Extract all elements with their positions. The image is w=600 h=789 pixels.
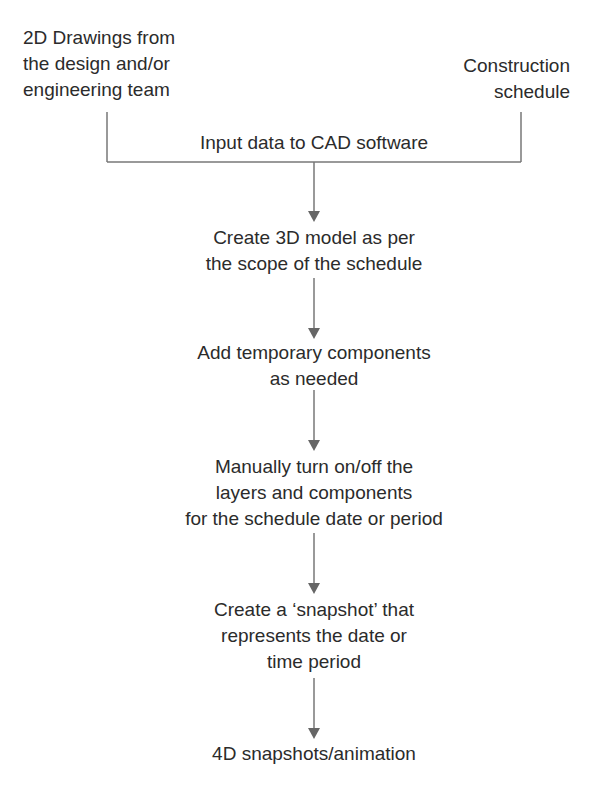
merge-label: Input data to CAD software [200, 130, 428, 156]
text-line: 2D Drawings from [23, 25, 175, 51]
text-line: layers and components [185, 480, 443, 506]
text-line: for the schedule date or period [185, 506, 443, 532]
text-line: time period [214, 649, 414, 675]
text-line: Create a ‘snapshot’ that [214, 597, 414, 623]
text-line: Create 3D model as per [206, 225, 423, 251]
step-toggle-layers: Manually turn on/off the layers and comp… [185, 454, 443, 532]
arrowhead-icon [308, 728, 320, 739]
input-construction-schedule: Construction schedule [463, 53, 570, 105]
arrowhead-icon [308, 440, 320, 451]
arrowhead-icon [308, 328, 320, 339]
text-line: engineering team [23, 77, 175, 103]
step-4d-output: 4D snapshots/animation [212, 741, 416, 767]
text-line: the design and/or [23, 51, 175, 77]
step-create-snapshot: Create a ‘snapshot’ that represents the … [214, 597, 414, 675]
text-line: Construction [463, 53, 570, 79]
text-line: the scope of the schedule [206, 251, 423, 277]
input-design-drawings: 2D Drawings from the design and/or engin… [23, 25, 175, 103]
text-line: Add temporary components [197, 340, 430, 366]
step-create-3d-model: Create 3D model as per the scope of the … [206, 225, 423, 277]
text-line: Manually turn on/off the [185, 454, 443, 480]
arrowhead-icon [308, 211, 320, 222]
arrowhead-icon [308, 583, 320, 594]
step-add-temporary-components: Add temporary components as needed [197, 340, 430, 392]
text-line: 4D snapshots/animation [212, 741, 416, 767]
text-line: as needed [197, 366, 430, 392]
text-line: represents the date or [214, 623, 414, 649]
text-line: schedule [463, 79, 570, 105]
